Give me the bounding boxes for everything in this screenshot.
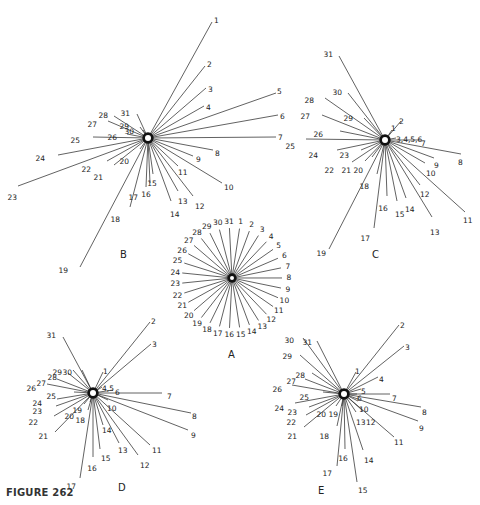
ray-line [387, 144, 406, 198]
ray-label: 19 [328, 410, 338, 419]
ray-line [152, 139, 213, 150]
ray-label: 29 [343, 114, 353, 123]
ray-label: 20 [353, 166, 363, 175]
ray-line [151, 88, 206, 135]
ray-label: 8 [215, 149, 220, 158]
ray-label: 2 [249, 220, 254, 229]
ray-label: 3 [208, 85, 213, 94]
ray-line [152, 137, 276, 138]
ray-label: 17 [360, 234, 370, 243]
ray-label: 21 [287, 432, 297, 441]
ray-label: 31 [46, 331, 56, 340]
ray-label: 28 [295, 371, 305, 380]
ray-label: 3 [260, 225, 265, 234]
ray-label: 29 [282, 352, 292, 361]
ray-label: 23 [32, 407, 42, 416]
ray-label: 26 [177, 246, 187, 255]
panel-a-radial-rosette: 1234567891011121314151617181920212223242… [171, 217, 292, 360]
ray-label: 18 [319, 432, 329, 441]
hub-center [90, 390, 96, 396]
ray-label: 7 [392, 394, 397, 403]
ray-label: 29 [52, 368, 62, 377]
ray-label: 25 [173, 256, 183, 265]
ray-line [348, 93, 382, 136]
ray-label: 12 [366, 418, 376, 427]
ray-label: 20 [64, 412, 74, 421]
ray-label: 15 [236, 330, 246, 339]
ray-label: 6 [357, 394, 362, 403]
ray-label: 14 [102, 426, 112, 435]
ray-label: 31 [302, 338, 312, 347]
ray-line [365, 143, 382, 161]
ray-label: 21 [38, 432, 48, 441]
ray-label: 13 [118, 446, 128, 455]
ray-label: 17 [322, 469, 332, 478]
panel-letter: A [228, 349, 235, 360]
ray-line [137, 114, 146, 134]
hub-center [230, 276, 234, 280]
ray-label: 14 [405, 205, 415, 214]
rays [292, 325, 421, 482]
figure-caption: FIGURE 262 [6, 487, 74, 498]
ray-label: 22 [28, 418, 38, 427]
ray-label: 18 [75, 416, 85, 425]
ray-label: 31 [323, 50, 333, 59]
ray-label: 7 [285, 262, 290, 271]
ray-label: 24 [171, 268, 181, 277]
ray-label: 10 [426, 169, 436, 178]
ray-label: 30 [124, 127, 134, 136]
panel-e-rosette: 1234567891011121314151617181920212223242… [272, 321, 427, 497]
rays [306, 56, 465, 249]
ray-label: 10 [224, 183, 234, 192]
ray-label: 8 [287, 273, 292, 282]
ray-line [337, 141, 381, 150]
ray-label: 16 [224, 330, 234, 339]
ray-line [188, 254, 228, 276]
ray-label: 11 [463, 216, 473, 225]
ray-label: 30 [284, 336, 294, 345]
ray-label: 24 [274, 404, 284, 413]
ray-label: 3 [152, 340, 157, 349]
ray-label: 2 [151, 317, 156, 326]
hub-center [341, 391, 347, 397]
ray-label: 24 [35, 154, 45, 163]
ray-label: 9 [419, 424, 424, 433]
ray-label: 3,4,5,6 [396, 135, 422, 144]
ray-label: 2 [399, 117, 404, 126]
ray-label: 5 [277, 87, 282, 96]
ray-label: 19 [58, 266, 68, 275]
ray-label: 26 [107, 133, 117, 142]
ray-labels: 123,4,5,67891011121314151617181920212223… [285, 50, 472, 258]
ray-line [219, 230, 231, 275]
ray-label: 4 [206, 103, 211, 112]
ray-label: 14 [364, 456, 374, 465]
ray-label: 29 [202, 222, 212, 231]
ray-label: 23 [171, 279, 181, 288]
ray-line [73, 370, 90, 390]
ray-label: 15 [147, 179, 157, 188]
ray-line [74, 392, 89, 393]
ray-line [306, 139, 381, 140]
ray-line [93, 137, 144, 138]
ray-label: 26 [313, 130, 323, 139]
ray-label: 25 [285, 142, 295, 151]
ray-label: 21 [93, 173, 103, 182]
ray-line [150, 22, 212, 134]
panel-b-rosette: 1234567891011121314151617181920212223242… [7, 16, 285, 275]
ray-line [236, 279, 281, 288]
ray-label: 1 [355, 367, 360, 376]
ray-label: 24 [308, 151, 318, 160]
ray-label: 1 [214, 16, 219, 25]
ray-line [63, 337, 91, 389]
ray-label: 2 [207, 60, 212, 69]
ray-label: 20 [316, 410, 326, 419]
ray-label: 22 [286, 418, 296, 427]
ray-label: 18 [110, 215, 120, 224]
ray-label: 27 [184, 236, 194, 245]
ray-label: 25 [299, 393, 309, 402]
ray-label: 10 [359, 405, 369, 414]
ray-label: 10 [280, 296, 290, 305]
ray-label: 24 [32, 399, 42, 408]
ray-label: 12 [140, 461, 150, 470]
ray-label: 4 [379, 375, 384, 384]
